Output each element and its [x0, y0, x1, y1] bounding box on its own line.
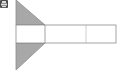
bottom-triangle — [16, 43, 45, 70]
top-triangle — [16, 0, 45, 25]
rectangle-strip — [16, 25, 116, 43]
net-diagram — [0, 0, 123, 76]
